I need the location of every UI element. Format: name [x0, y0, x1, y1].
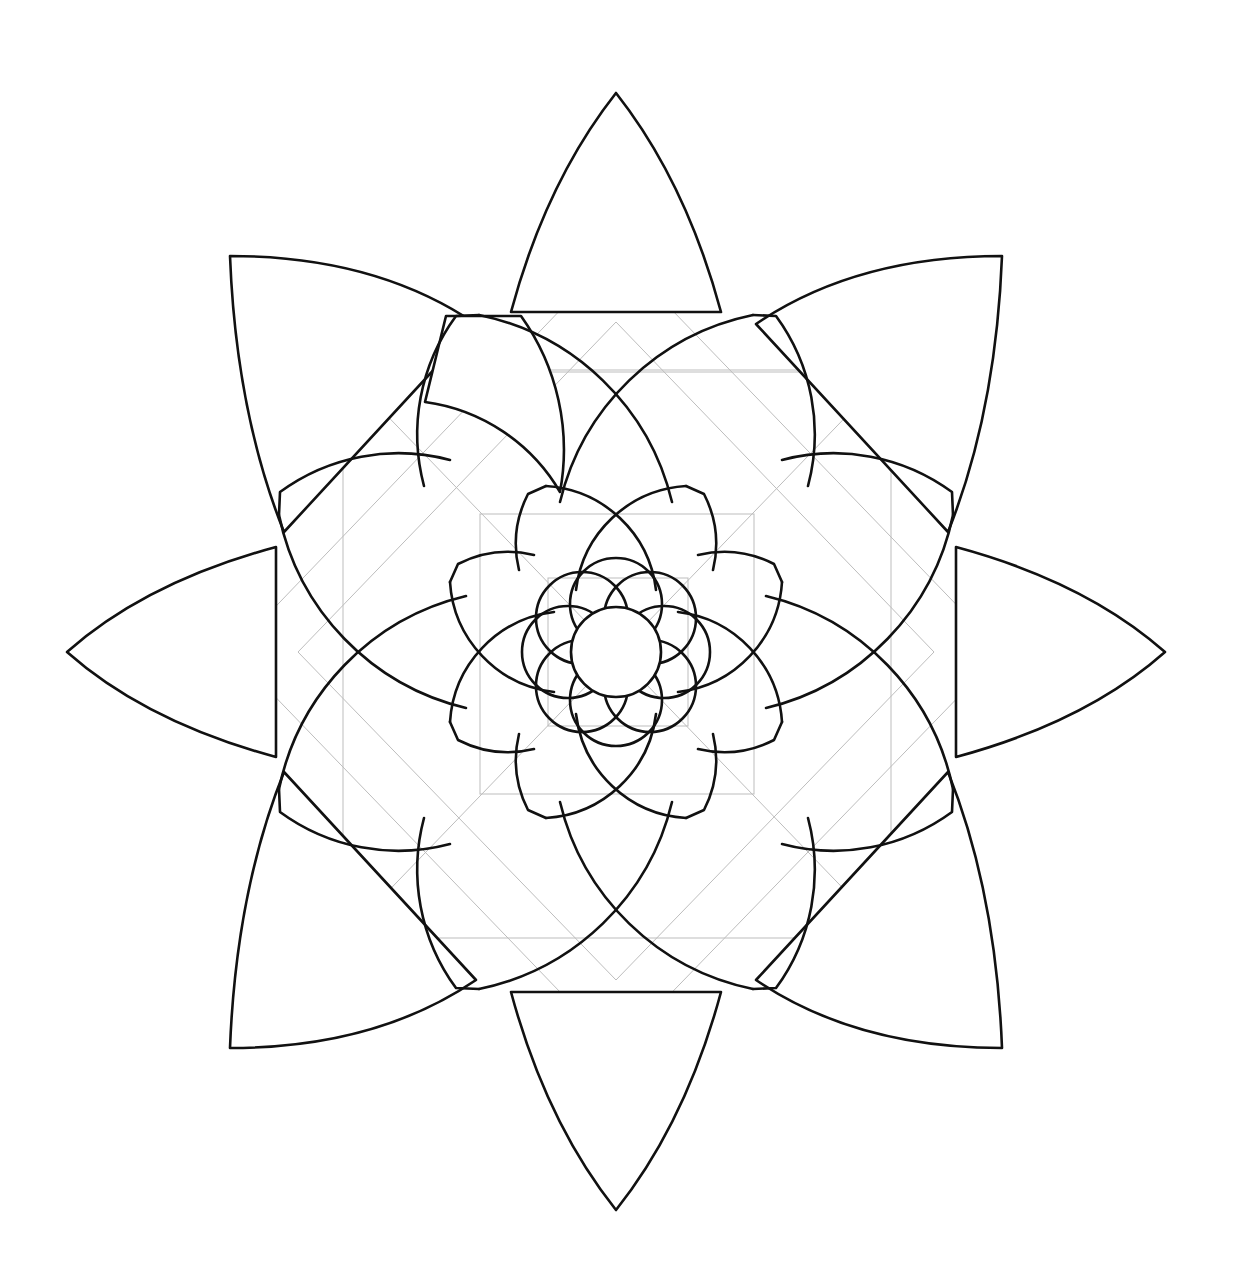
mandala-drawing: Geometric lotus mandala line drawing [0, 0, 1235, 1287]
core-ring [522, 558, 710, 746]
center-disc [571, 607, 661, 697]
